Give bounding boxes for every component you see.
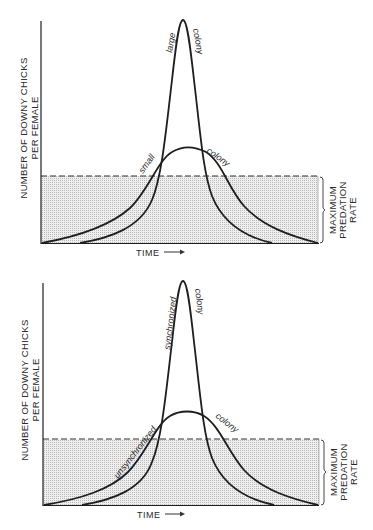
threshold-label-line3: RATE <box>347 197 358 223</box>
label-colony-narrow: colony <box>191 28 205 56</box>
panel-synchrony: synchronized colony unsynchronized colon… <box>19 281 359 520</box>
x-axis-label: TIME <box>136 248 160 258</box>
predation-bracket <box>320 177 325 243</box>
y-axis-label-line2: PER FEMALE <box>29 96 40 159</box>
y-axis-label-line1: NUMBER OF DOWNY CHICKS <box>18 57 29 198</box>
label-colony-narrow: colony <box>193 288 206 316</box>
threshold-label-line3: RATE <box>348 459 359 485</box>
time-arrowhead-icon <box>180 512 185 517</box>
y-axis-label-line2: PER FEMALE <box>30 358 41 421</box>
x-axis-label: TIME <box>137 510 161 520</box>
label-small: small <box>136 151 157 175</box>
figure: large colony small colony NUMBER OF DOWN… <box>0 0 373 530</box>
y-axis-label-line1: NUMBER OF DOWNY CHICKS <box>19 319 30 460</box>
panel-colony-size: large colony small colony NUMBER OF DOWN… <box>18 20 358 258</box>
label-synchronized: synchronized <box>162 295 179 350</box>
predation-bracket <box>321 440 326 505</box>
time-arrowhead-icon <box>180 250 185 255</box>
